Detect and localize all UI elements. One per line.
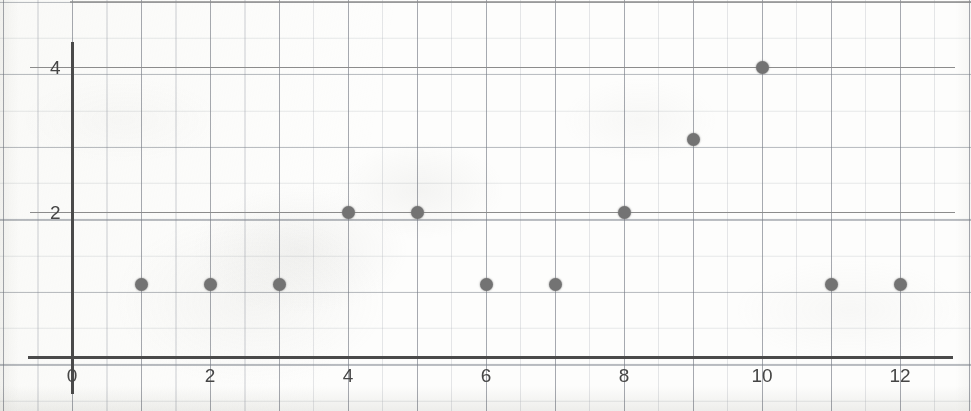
y-axis-line: [71, 42, 74, 394]
x-tick-label-8: 8: [619, 366, 630, 385]
x-tick-label-10: 10: [751, 366, 772, 385]
x-tick-label-12: 12: [889, 366, 910, 385]
x-axis-line: [28, 356, 953, 359]
data-point: [204, 278, 217, 291]
plot-area: [0, 0, 971, 411]
x-tick-label-0: 0: [67, 366, 78, 385]
scanned-scatter-plot-image: 02468101224: [0, 0, 971, 411]
data-point: [411, 206, 424, 219]
data-point: [480, 278, 493, 291]
data-point: [342, 206, 355, 219]
data-point: [756, 61, 769, 74]
x-tick-label-2: 2: [205, 366, 216, 385]
x-tick-label-6: 6: [481, 366, 492, 385]
data-point: [825, 278, 838, 291]
data-point: [549, 278, 562, 291]
data-point: [135, 278, 148, 291]
data-point: [273, 278, 286, 291]
y-tick-label-2: 2: [50, 203, 61, 222]
x-tick-label-4: 4: [343, 366, 354, 385]
data-point: [894, 278, 907, 291]
data-point: [687, 133, 700, 146]
data-point: [618, 206, 631, 219]
y-tick-label-4: 4: [50, 58, 61, 77]
value-gridline-y-4: [30, 67, 955, 68]
value-gridline-y-2: [30, 212, 955, 213]
